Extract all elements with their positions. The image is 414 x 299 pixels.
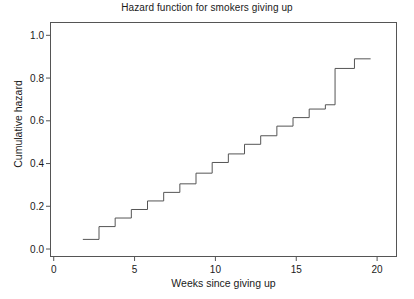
y-tick-label: 1.0: [14, 30, 44, 41]
y-tick-label: 0.8: [14, 73, 44, 84]
hazard-function-chart: Hazard function for smokers giving up Cu…: [0, 0, 414, 299]
tick-marks: [46, 35, 377, 261]
y-tick-label: 0.0: [14, 244, 44, 255]
x-tick-label: 5: [120, 264, 150, 275]
step-curve: [83, 59, 371, 240]
y-tick-label: 0.2: [14, 201, 44, 212]
plot-area: [0, 0, 414, 299]
y-tick-label: 0.6: [14, 115, 44, 126]
x-axis-title: Weeks since giving up: [50, 277, 397, 289]
plot-frame: [51, 23, 397, 257]
x-tick-label: 10: [200, 264, 230, 275]
x-tick-label: 0: [39, 264, 69, 275]
y-tick-label: 0.4: [14, 158, 44, 169]
x-tick-label: 15: [281, 264, 311, 275]
x-tick-label: 20: [362, 264, 392, 275]
